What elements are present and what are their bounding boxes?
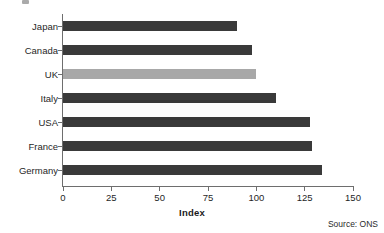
y-axis-label: Canada — [25, 45, 58, 56]
y-axis-label: USA — [38, 117, 58, 128]
bar-row: Canada — [0, 38, 384, 62]
x-axis-tick — [256, 186, 257, 191]
y-axis-label: France — [28, 141, 58, 152]
x-axis-title: Index — [0, 207, 384, 218]
x-axis-tick-label: 100 — [248, 192, 264, 203]
bar-row: UK — [0, 62, 384, 86]
x-axis-tick-label: 150 — [345, 192, 361, 203]
x-axis-tick — [159, 186, 160, 191]
bar-chart-figure: Japan Canada UK Italy USA France — [0, 0, 384, 233]
y-axis-label: Germany — [19, 165, 58, 176]
bar-row: Italy — [0, 86, 384, 110]
x-axis-tick-label: 50 — [154, 192, 165, 203]
x-axis-tick — [353, 186, 354, 191]
y-axis-tick — [58, 98, 62, 99]
bar-row: Germany — [0, 158, 384, 182]
plot-area: Japan Canada UK Italy USA France — [0, 0, 384, 233]
y-axis-label: Japan — [32, 21, 58, 32]
y-axis-tick — [58, 50, 62, 51]
x-axis-tick — [111, 186, 112, 191]
y-axis-label: Italy — [41, 93, 58, 104]
y-axis-label: UK — [45, 69, 58, 80]
bar-uk — [63, 69, 256, 79]
x-axis-tick-label: 0 — [60, 192, 65, 203]
y-axis-tick — [58, 146, 62, 147]
bar-usa — [63, 117, 310, 127]
x-axis-tick — [208, 186, 209, 191]
x-axis-tick-label: 75 — [203, 192, 214, 203]
x-axis-tick-label: 125 — [297, 192, 313, 203]
bar-italy — [63, 93, 276, 103]
bar-row: Japan — [0, 14, 384, 38]
y-axis-tick — [58, 170, 62, 171]
x-axis-tick — [63, 186, 64, 191]
bar-canada — [63, 45, 252, 55]
y-axis-tick — [58, 122, 62, 123]
x-axis-tick — [304, 186, 305, 191]
bar-row: USA — [0, 110, 384, 134]
bar-france — [63, 141, 312, 151]
y-axis-tick — [58, 26, 62, 27]
bar-row: France — [0, 134, 384, 158]
bar-japan — [63, 21, 237, 31]
bar-germany — [63, 165, 322, 175]
source-note: Source: ONS — [328, 219, 378, 229]
x-axis-tick-label: 25 — [106, 192, 117, 203]
y-axis-tick — [58, 74, 62, 75]
